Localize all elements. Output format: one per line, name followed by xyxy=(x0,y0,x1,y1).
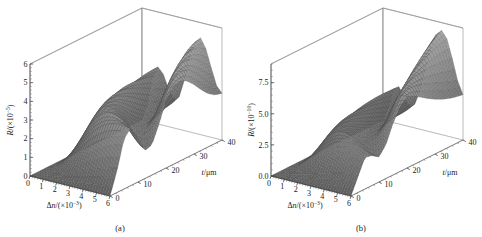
z-tick-label: 7.5 xyxy=(259,78,269,87)
z-tick-label: 4 xyxy=(24,97,28,106)
y-axis-title: t/μm xyxy=(442,168,458,177)
z-axis-title: R/(×10−10) xyxy=(246,103,256,138)
y-tick-label: 20 xyxy=(413,166,421,175)
x-tick-label: 1 xyxy=(280,182,284,191)
y-tick-label: 0 xyxy=(116,194,120,203)
y-tick-label: 0 xyxy=(357,194,361,203)
plot-a-svg: 0123456R/(×10−5)0123456Δn/(×10−3)0102030… xyxy=(0,0,241,237)
z-tick-label: 2 xyxy=(24,134,28,143)
x-tick-label: 1 xyxy=(39,182,43,191)
x-tick-label: 6 xyxy=(347,199,351,208)
y-tick-label: 10 xyxy=(144,180,152,189)
z-tick-label: 2.5 xyxy=(259,141,269,150)
z-tick-label: 1 xyxy=(24,153,28,162)
figure-root: 0123456R/(×10−5)0123456Δn/(×10−3)0102030… xyxy=(0,0,482,237)
x-tick-label: 5 xyxy=(334,195,338,204)
x-tick-label: 0 xyxy=(26,179,30,188)
y-tick-label: 30 xyxy=(441,152,449,161)
z-tick-label: 6 xyxy=(24,60,28,69)
x-tick-label: 2 xyxy=(294,185,298,194)
panel-a: 0123456R/(×10−5)0123456Δn/(×10−3)0102030… xyxy=(0,0,241,237)
panel-b: 0.02.55.07.5R/(×10−10)0123456Δn/(×10−3)0… xyxy=(241,0,482,237)
x-tick-label: 4 xyxy=(320,192,324,201)
x-tick-label: 6 xyxy=(106,199,110,208)
surface-plot-a xyxy=(30,8,222,196)
x-axis-title: Δn/(×10−3) xyxy=(287,200,323,210)
z-tick-label: 3 xyxy=(24,116,28,125)
z-tick-label: 5.0 xyxy=(259,110,269,119)
y-tick-label: 20 xyxy=(172,166,180,175)
y-tick-label: 40 xyxy=(228,138,236,147)
y-axis-title: t/μm xyxy=(201,168,217,177)
panel-caption: (b) xyxy=(356,223,366,233)
x-tick-label: 4 xyxy=(79,192,83,201)
y-tick-label: 10 xyxy=(385,180,393,189)
z-tick-label: 5 xyxy=(24,78,28,87)
x-tick-label: 0 xyxy=(267,179,271,188)
x-tick-label: 2 xyxy=(53,185,57,194)
surface-plot-b xyxy=(271,8,463,196)
x-tick-label: 3 xyxy=(307,189,311,198)
x-tick-label: 5 xyxy=(93,195,97,204)
x-tick-label: 3 xyxy=(66,189,70,198)
panel-caption: (a) xyxy=(115,223,125,233)
z-axis-title: R/(×10−5) xyxy=(5,104,15,136)
plot-b-svg: 0.02.55.07.5R/(×10−10)0123456Δn/(×10−3)0… xyxy=(241,0,482,237)
y-tick-label: 40 xyxy=(469,138,477,147)
y-tick-label: 30 xyxy=(200,152,208,161)
x-axis-title: Δn/(×10−3) xyxy=(46,200,82,210)
